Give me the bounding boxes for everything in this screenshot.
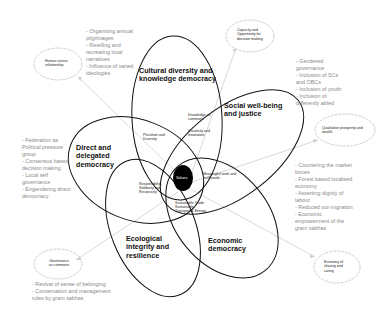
overlap-knowledge-commons: Knowledge as commons xyxy=(188,113,212,121)
petal-title-cultural: Cultural diversity and knowledge democra… xyxy=(139,67,219,84)
bubble-label-human-nature: Human nature relationship xyxy=(45,59,75,68)
bullet-item: - Local self governance xyxy=(22,172,72,186)
bullet-item: - Conservation and management rules by g… xyxy=(32,288,114,302)
bullets-social: - Gendered governance - Inclusion of SCs… xyxy=(296,58,342,107)
overlap-pluralism: Pluralism and Diversity xyxy=(143,133,167,141)
bullet-item: - Inclusion of differently abled xyxy=(296,93,342,107)
bullet-item: - Inclusion of SCs and OBCs xyxy=(296,72,342,86)
bullet-item: - Gendered governance xyxy=(296,58,342,72)
bullets-cultural: - Organising annual pilgrimages - Retell… xyxy=(86,28,138,77)
arrowhead-icon xyxy=(310,254,315,258)
bullet-item: - Economic empowerment of the gram sabha… xyxy=(295,211,355,232)
bullet-item: - Inclusion of youth xyxy=(296,86,342,93)
bullet-item: - Organising annual pilgrimages xyxy=(86,28,138,42)
bullet-item: - Asserting dignity of labour xyxy=(295,190,355,204)
bullets-ecological: - Revival of sense of belonging - Conser… xyxy=(32,281,114,302)
petal-title-ecological: Ecological integrity and resilience xyxy=(126,235,188,260)
bullet-item: - Consensus based decision making xyxy=(22,158,72,172)
petal-economic xyxy=(143,136,301,299)
bubble-label-qualitative: Qualitative prosperity and wealth xyxy=(322,126,370,135)
bullet-item: - Federation as Political pressure group xyxy=(22,137,72,158)
bullets-direct: - Federation as Political pressure group… xyxy=(22,137,72,200)
petal-title-economic: Economic democracy xyxy=(208,237,278,254)
overlap-meaningful-work: Meaningful work and livelihoods xyxy=(203,172,239,180)
center-label: Values xyxy=(176,176,187,180)
bullet-item: - Reduced out-migration xyxy=(295,204,355,211)
petal-title-direct: Direct and delegated democracy xyxy=(76,144,138,169)
bullet-item: - Influence of varied ideologies xyxy=(86,63,138,77)
bullet-item: - Forest based localised economy xyxy=(295,176,355,190)
overlap-sustainable-trade: Sustainable Trade Sustainable Transport … xyxy=(175,201,208,213)
bullet-item: - Countering the market forces xyxy=(295,162,355,176)
overlap-responsibility: Responsibility, Solidarity and Reciproci… xyxy=(139,182,169,194)
bullet-item: - Retelling and recreating local narrati… xyxy=(86,42,138,63)
bubble-label-capacity: Capacity and Opportunity for decision ma… xyxy=(237,28,267,41)
petal-title-social: Social well-being and justice xyxy=(224,102,284,119)
bullet-item: - Revival of sense of belonging xyxy=(32,281,114,288)
bubble-label-governance: Governance as commons xyxy=(48,259,70,268)
bullets-economic: - Countering the market forces - Forest … xyxy=(295,162,355,232)
arrowhead-icon xyxy=(313,139,318,143)
bullet-item: - Engendering direct democracy xyxy=(22,186,72,200)
overlap-creativity: Creativity and Innovation xyxy=(188,129,212,137)
bubble-label-economy-sharing: Economy of sharing and caring xyxy=(324,260,348,273)
